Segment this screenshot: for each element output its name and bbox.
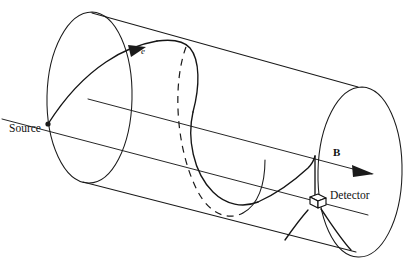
detector-box bbox=[310, 194, 326, 208]
helix-segment-7 bbox=[285, 210, 308, 240]
detector-label: Detector bbox=[330, 190, 370, 202]
source-label: Source bbox=[9, 123, 41, 135]
cylinder-axis-line bbox=[88, 99, 372, 174]
helix-segment-3 bbox=[191, 112, 258, 205]
helix-segment-4 bbox=[258, 156, 315, 202]
cylinder-rule-lines bbox=[2, 13, 372, 252]
magnetic-field-arrow bbox=[352, 165, 374, 177]
magnetic-field-label: B bbox=[333, 147, 340, 158]
electron-label: e bbox=[141, 47, 145, 56]
source-dot bbox=[45, 121, 50, 126]
b-field-arrowhead bbox=[352, 165, 374, 177]
figure-root: Source Detector B e bbox=[0, 0, 415, 271]
cylinder-left-cap bbox=[47, 12, 132, 183]
left-cap-ellipse bbox=[47, 12, 132, 183]
source-marker bbox=[45, 121, 50, 126]
diagram-canvas bbox=[0, 0, 415, 271]
helical-path bbox=[48, 40, 351, 250]
